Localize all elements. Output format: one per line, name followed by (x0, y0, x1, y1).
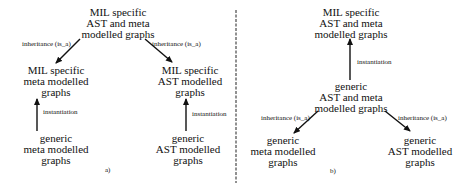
edge-label-b-left: inheritance (is_a) (261, 114, 310, 122)
edge-label-a-right: inheritance (is_a) (152, 40, 201, 48)
caption-a: a) (105, 166, 110, 174)
node-a-mil-specific-meta: MIL specific meta modelled graphs (23, 65, 88, 98)
node-a-generic-meta: generic meta modelled graphs (23, 133, 88, 166)
caption-b: b) (330, 167, 336, 175)
node-a-mil-specific-ast: MIL specific AST modelled graphs (158, 65, 222, 98)
edge-label-a-inst-left: instantiation (43, 108, 78, 116)
node-a-generic-ast: generic AST modelled graphs (156, 133, 220, 166)
node-b-generic-ast-meta: generic AST and meta modelled graphs (314, 81, 387, 114)
node-b-generic-ast: generic AST modelled graphs (388, 135, 452, 168)
node-b-generic-meta: generic meta modelled graphs (250, 135, 315, 168)
edge-label-a-left: inheritance (is_a) (22, 40, 71, 48)
edge-label-b-inst: instantiation (357, 58, 392, 66)
node-b-mil-specific-ast-meta: MIL specific AST and meta modelled graph… (314, 7, 387, 40)
edge-label-b-right: inheritance (is_a) (398, 114, 447, 122)
edge-label-a-inst-right: instantiation (192, 110, 227, 118)
node-a-mil-specific-ast-meta: MIL specific AST and meta modelled graph… (81, 7, 154, 40)
